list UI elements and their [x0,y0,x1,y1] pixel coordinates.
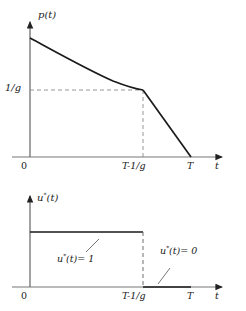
figure-container: p(t) 1/g 0 T-1/g T t u*(t) 0 T-1/g T t u… [0,0,246,311]
costate-y-axis-label: p(t) [38,10,56,20]
annotation-u-equals-zero: u*(t)= 0 [160,246,197,256]
control-origin-label: 0 [21,291,27,301]
control-y-axis-label-arg: (t) [47,192,59,203]
control-y-axis-label: u*(t) [37,192,58,203]
annotation-leader-u0 [158,268,170,284]
costate-curve-segment [30,38,143,90]
control-x-axis-label: t [215,291,219,301]
costate-x-axis-label: t [215,161,219,171]
figure-svg [0,0,246,311]
costate-panel [12,22,222,157]
costate-xtick-label-switch: T-1/g [122,161,146,171]
costate-ytick-label: 1/g [5,83,21,93]
annotation-u0-rest: (t)= 0 [169,245,197,256]
annotation-u1-rest: (t)= 1 [66,253,94,264]
annotation-leader-u1 [86,239,99,252]
costate-xtick-label-terminal: T [187,161,193,171]
costate-origin-label: 0 [21,161,27,171]
costate-line-segment [143,90,191,157]
annotation-u-equals-one: u*(t)= 1 [57,254,94,264]
control-xtick-label-terminal: T [187,291,193,301]
control-xtick-label-switch: T-1/g [122,291,146,301]
control-panel [12,196,222,287]
